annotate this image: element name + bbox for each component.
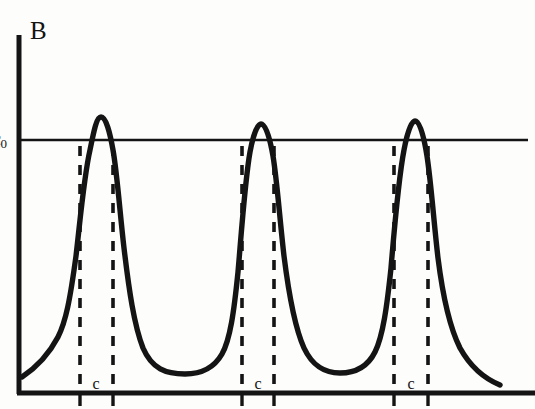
figure-panel-b: B c0 c c c: [0, 0, 535, 409]
threshold-label-subscript: 0: [1, 136, 7, 151]
peak-width-label-3: c: [401, 375, 421, 393]
threshold-axis-label-c0: c0: [0, 129, 7, 152]
peak-width-label-1: c: [86, 375, 106, 393]
panel-letter-b: B: [30, 17, 47, 45]
peak-width-label-2: c: [248, 375, 268, 393]
figure-plot-area: [0, 0, 535, 409]
